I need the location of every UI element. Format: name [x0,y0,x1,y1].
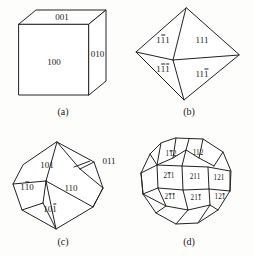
cube-label-001: 001 [55,13,69,22]
octahedron-outline [136,8,239,100]
octahedron-label-1bar11: 111 [156,36,170,45]
caption-d: (d) [126,236,252,247]
panel-cube: 001 010 100 (a) [0,0,126,128]
trap-label-2bar1bar1: 211 [165,194,176,201]
trap-label-211: 211 [190,174,201,181]
rhombdod-label-1bar10: 110 [20,183,34,192]
trap-label-2bar11: 211 [164,173,175,180]
rhombdod-label-110: 110 [64,184,77,193]
cube-label-010: 010 [91,50,105,59]
trap-label-12bar1: 121 [215,194,226,201]
octahedron-label-1bar1bar1: 111 [156,65,170,74]
rhombdod-label-101: 101 [40,161,54,170]
trap-label-1bar12: 112 [166,151,177,158]
crystal-forms-figure: 001 010 100 (a) 111 111 111 111 (b) [0,0,253,256]
caption-a: (a) [0,106,126,117]
octahedron-label-111: 111 [196,36,209,45]
trap-label-112: 112 [193,150,204,157]
trap-label-21bar1: 211 [191,195,202,202]
rhombdod-label-011: 011 [102,157,115,166]
panel-rhombic-dodecahedron: 101 011 110 110 101 (c) [0,128,126,256]
rhombdod-label-10bar1: 101 [43,205,57,214]
caption-c: (c) [0,236,126,247]
octahedron-label-11bar1: 111 [195,70,208,79]
trap-label-121: 121 [214,175,225,182]
cube-label-100: 100 [47,58,61,67]
caption-b: (b) [126,106,252,117]
panel-octahedron: 111 111 111 111 (b) [126,0,252,128]
panel-trapezohedron: 112 112 211 211 121 211 211 121 (d) [126,128,252,256]
